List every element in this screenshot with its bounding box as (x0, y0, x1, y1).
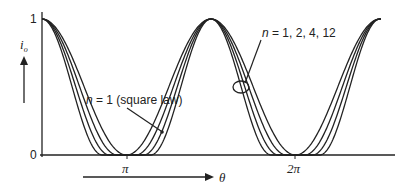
annotation-family-leader (245, 40, 261, 83)
y-axis-label: io (20, 37, 28, 54)
waveform-diagram: 1 0 π 2π io θ n = 1, 2, 4, 12 n = 1 (squ… (0, 0, 410, 192)
theta-label: θ (219, 170, 226, 185)
x-tick-pi-label: π (122, 161, 129, 176)
x-tick-2pi-label: 2π (287, 161, 301, 176)
annotation-square-law: n = 1 (square law) (86, 93, 182, 107)
annotation-family: n = 1, 2, 4, 12 (262, 26, 336, 40)
arrow-up-icon (20, 56, 28, 65)
y-tick-zero: 0 (30, 148, 37, 162)
annotation-square-dot (160, 130, 164, 134)
y-tick-one: 1 (30, 12, 37, 26)
arrow-right-icon (205, 173, 214, 181)
